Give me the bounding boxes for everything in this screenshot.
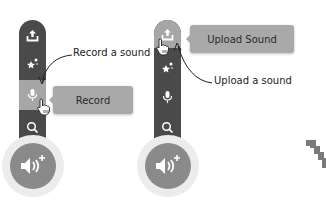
record-annotation: Record a sound — [73, 47, 150, 58]
left-add-sound-button[interactable] — [10, 143, 56, 189]
microphone-icon — [161, 90, 174, 104]
record-tooltip-label: Record — [76, 95, 111, 106]
record-tooltip: Record — [53, 86, 133, 114]
upload-annotation: Upload a sound — [214, 75, 292, 86]
upload-sound-item[interactable] — [19, 22, 46, 48]
add-sound-icon — [18, 153, 48, 179]
upload-annotation-arrow — [168, 38, 218, 88]
add-sound-icon — [153, 153, 183, 179]
right-add-sound-button[interactable] — [145, 143, 191, 189]
search-icon — [161, 121, 174, 134]
record-annotation-arrow — [36, 52, 76, 88]
search-icon — [26, 121, 39, 134]
partial-stair-shape — [306, 140, 326, 168]
hand-cursor-icon — [36, 98, 52, 116]
upload-icon — [26, 29, 39, 42]
hand-cursor-icon — [155, 38, 171, 56]
